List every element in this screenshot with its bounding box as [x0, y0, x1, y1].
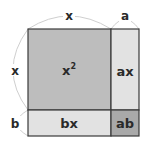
bx-label: bx	[60, 116, 78, 131]
ab-label: ab	[116, 116, 134, 131]
ax-label: ax	[116, 64, 134, 79]
top-x-label: x	[65, 9, 73, 23]
area-model-diagram: x a x b x2 ax bx ab	[0, 0, 153, 150]
x-squared-exponent: 2	[70, 62, 76, 71]
top-a-label: a	[121, 9, 129, 23]
left-b-label: b	[11, 117, 20, 131]
left-x-label: x	[11, 64, 19, 78]
